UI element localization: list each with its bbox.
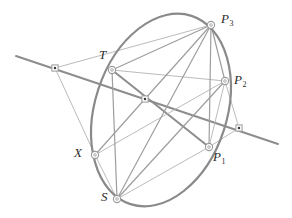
point-label-P1: P1 — [213, 150, 225, 163]
intersection-dot-L — [54, 67, 57, 70]
segment-T-to-P2 — [112, 70, 225, 81]
point-node-S[interactable] — [113, 195, 120, 202]
point-node-T[interactable] — [108, 66, 115, 73]
point-label-X: X — [74, 146, 82, 159]
intersection-dot-C — [144, 98, 147, 101]
segments-layer — [16, 25, 278, 199]
segment-P3-to-P1 — [209, 25, 211, 147]
point-node-P2[interactable] — [221, 77, 228, 84]
geometry-figure: P3P2P1TXS — [0, 0, 292, 218]
intersection-dot-R — [238, 127, 241, 130]
point-label-P3: P3 — [221, 12, 233, 25]
segment-L-to-P3 — [55, 25, 211, 68]
segment-T-to-P3 — [112, 25, 211, 70]
point-label-subscript-P3: 3 — [229, 19, 233, 28]
segment-P3-to-P2 — [211, 25, 225, 81]
nodes-layer — [52, 21, 242, 202]
point-label-S: S — [101, 190, 108, 203]
geometry-canvas — [0, 0, 292, 218]
point-label-subscript-P1: 1 — [221, 157, 225, 166]
point-label-T: T — [99, 48, 106, 61]
point-node-X[interactable] — [91, 151, 98, 158]
point-label-P2: P2 — [234, 73, 246, 86]
point-node-P1[interactable] — [205, 143, 212, 150]
point-label-subscript-P2: 2 — [242, 80, 246, 89]
point-node-P3[interactable] — [207, 21, 214, 28]
